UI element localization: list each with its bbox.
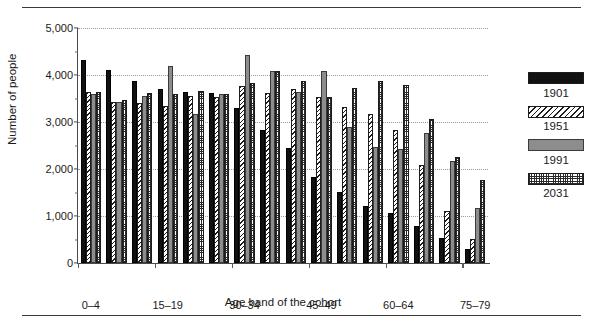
x-tick-mark [386,263,387,268]
legend-label-1951: 1951 [543,120,569,132]
x-tick-mark [462,263,463,268]
bar-2031-15-19 [173,94,178,263]
bar-group [129,28,155,263]
bar-2031-10-14 [147,93,152,263]
legend-item-1951: 1951 [528,106,584,133]
bar-group [411,28,437,263]
bar-group [206,28,232,263]
bottom-rule [22,315,581,316]
legend-item-1991: 1991 [528,139,584,166]
x-tick-mark [155,263,156,268]
bar-group [232,28,258,263]
bar-group [181,28,207,263]
figure-root: Number of people 01,0002,0003,0004,0005,… [0,0,597,329]
y-tick-label: 4,000 [45,69,73,81]
bar-2031-55-59 [378,81,383,263]
bar-2031-65-69 [429,119,434,263]
bar-2031-75-79 [480,180,485,263]
x-axis-label: Age band of the cohort [78,296,488,308]
legend-swatch-1901 [528,72,584,84]
legend-swatch-1951 [528,106,584,118]
y-tick-label: 5,000 [45,22,73,34]
clipped-figure-title [80,0,500,4]
legend-item-1901: 1901 [528,72,584,99]
y-tick-label: 1,000 [45,210,73,222]
bar-group [257,28,283,263]
bar-group [334,28,360,263]
y-tick-label: 2,000 [45,163,73,175]
bar-group [437,28,463,263]
x-tick-mark [232,263,233,268]
bar-group [155,28,181,263]
bar-2031-40-44 [301,81,306,263]
bar-2031-20-24 [198,91,203,263]
bar-group [309,28,335,263]
x-tick-mark [78,263,79,268]
legend-label-1901: 1901 [543,87,569,99]
bar-2031-0-4 [96,92,101,263]
legend-label-2031: 2031 [543,187,569,199]
bar-group [104,28,130,263]
y-tick-label: 3,000 [45,116,73,128]
bar-2031-35-39 [275,71,280,263]
bar-group [360,28,386,263]
bar-2031-70-74 [455,157,460,263]
y-tick-label: 0 [67,257,73,269]
bar-groups [78,28,488,263]
legend-swatch-1991 [528,139,584,151]
y-axis-label: Number of people [6,54,18,145]
bar-group [462,28,488,263]
bar-group [78,28,104,263]
x-tick-mark [309,263,310,268]
bar-2031-50-54 [352,88,357,263]
bar-2031-5-9 [122,100,127,263]
bar-2031-30-34 [250,83,255,263]
legend: 1901195119912031 [525,72,587,206]
legend-item-2031: 2031 [528,173,584,200]
top-rule [22,7,581,8]
legend-label-1991: 1991 [543,154,569,166]
bar-2031-25-29 [224,94,229,263]
legend-swatch-2031 [528,173,584,185]
bar-group [283,28,309,263]
bar-group [386,28,412,263]
bar-2031-60-64 [403,85,408,263]
bar-2031-45-49 [327,97,332,263]
plot-area: 01,0002,0003,0004,0005,000 0–415–1930–34… [78,28,488,263]
